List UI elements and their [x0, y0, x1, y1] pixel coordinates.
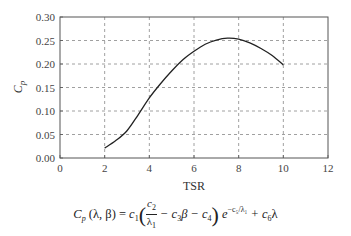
x-tick-label: 12 [323, 162, 334, 174]
y-axis-label: Cp [11, 80, 27, 93]
formula-lambda: λ [272, 207, 278, 221]
formula-c6-term: + c [247, 207, 267, 221]
y-axis-ticks: 0.000.050.100.150.200.250.30 [36, 11, 63, 164]
formula-open-paren: ( [139, 202, 146, 227]
x-tick-label: 0 [57, 162, 63, 174]
grid-lines [60, 17, 328, 158]
formula-lhs-symbol: C [73, 207, 81, 221]
x-tick-label: 4 [147, 162, 153, 174]
formula-close-paren: ) [212, 202, 219, 227]
formula-c3-term: − c [157, 207, 177, 221]
x-tick-label: 6 [191, 162, 197, 174]
formula-numerator: c2 [146, 197, 157, 215]
y-tick-label: 0.25 [36, 35, 56, 47]
cp-formula: Cp (λ, β) = c1(c2λ1 − c3β − c4) e−c₅/λ₁ … [0, 197, 351, 232]
y-tick-label: 0.00 [36, 152, 56, 164]
formula-fraction: c2λ1 [146, 197, 157, 232]
y-tick-label: 0.10 [36, 105, 56, 117]
y-tick-label: 0.15 [36, 82, 56, 94]
formula-c4-term: β − c [181, 207, 207, 221]
x-axis-label: TSR [183, 179, 205, 193]
cp-vs-tsr-chart: 0.000.050.100.150.200.250.30 024681012 T… [0, 0, 351, 196]
y-tick-label: 0.30 [36, 11, 56, 23]
x-tick-label: 8 [236, 162, 242, 174]
formula-exp-base: e [219, 207, 228, 221]
formula-exp-sup: −c₅/λ₁ [228, 205, 248, 214]
y-tick-label: 0.05 [36, 129, 56, 141]
y-tick-label: 0.20 [36, 58, 56, 70]
x-tick-label: 2 [102, 162, 108, 174]
formula-lhs-args: (λ, β) = [86, 207, 129, 221]
x-tick-label: 10 [278, 162, 290, 174]
formula-denominator: λ1 [146, 215, 157, 232]
